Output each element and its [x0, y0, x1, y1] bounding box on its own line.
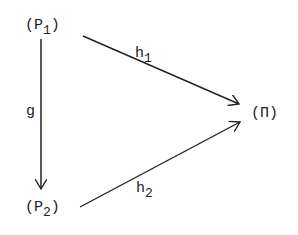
- node-p2-text: (P: [25, 199, 43, 216]
- edge-label-h1: h1: [135, 46, 152, 61]
- node-p2-subscript: 2: [43, 205, 51, 220]
- edge-h2-text: h: [136, 180, 145, 197]
- edge-label-g: g: [26, 104, 35, 119]
- node-p2-close: ): [51, 199, 60, 216]
- edge-label-h2: h2: [136, 181, 153, 196]
- edge-g-text: g: [26, 103, 35, 120]
- edge-h1-text: h: [135, 45, 144, 62]
- arrow-h1: [83, 36, 239, 104]
- node-pi: (Π): [251, 106, 278, 121]
- node-p2: (P2): [25, 200, 60, 215]
- edge-h2-subscript: 2: [145, 186, 153, 201]
- node-p1-text: (P: [25, 17, 43, 34]
- node-p1-subscript: 1: [43, 23, 51, 38]
- node-p1: (P1): [25, 18, 60, 33]
- edge-h1-subscript: 1: [144, 51, 152, 66]
- arrow-h2: [80, 122, 240, 207]
- node-p1-close: ): [51, 17, 60, 34]
- commutative-diagram: (P1) (P2) (Π) g h1 h2: [0, 0, 298, 235]
- node-pi-text: (Π): [251, 105, 278, 122]
